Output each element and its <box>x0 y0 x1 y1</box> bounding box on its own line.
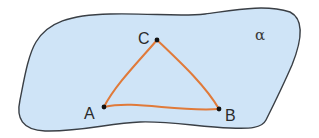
plane-alpha-label: α <box>255 26 265 44</box>
vertex-B-point <box>217 107 222 112</box>
vertex-A-point <box>102 105 107 110</box>
vertex-A-label: A <box>84 105 95 122</box>
vertex-C-label: C <box>138 30 150 47</box>
vertex-C-point <box>155 38 160 43</box>
plane-triangle-diagram: C A B α <box>0 0 319 138</box>
vertex-B-label: B <box>225 107 236 124</box>
